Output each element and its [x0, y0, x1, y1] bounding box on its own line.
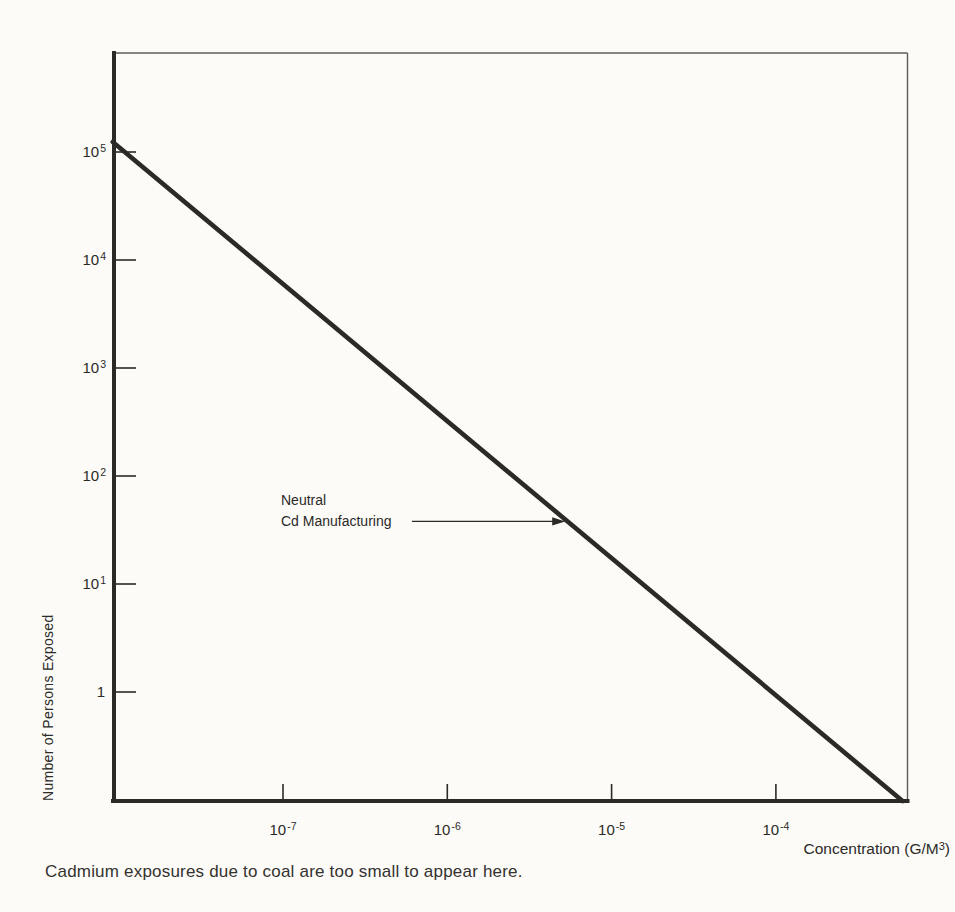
tick-base: 10: [82, 143, 99, 160]
y-tick-label: 1: [58, 680, 106, 700]
x-axis-title: Concentration (G/M3): [803, 840, 950, 858]
tick-exp: 5: [100, 142, 106, 154]
x-tick-label: 10-6: [415, 818, 479, 838]
chart-canvas: [0, 0, 955, 912]
y-tick-label: 105: [58, 140, 106, 160]
x-axis-title-suffix: ): [945, 840, 950, 857]
tick-exp: 1: [100, 574, 106, 586]
tick-base: 10: [82, 575, 99, 592]
tick-exp: -5: [616, 820, 625, 832]
tick-base: 10: [82, 251, 99, 268]
tick-base: 10: [82, 359, 99, 376]
x-tick-label: 10-5: [580, 818, 644, 838]
tick-base: 10: [82, 467, 99, 484]
tick-base: 1: [97, 683, 105, 700]
y-tick-label: 104: [58, 248, 106, 268]
tick-exp: 2: [100, 466, 106, 478]
y-tick-label: 103: [58, 356, 106, 376]
y-tick-label: 102: [58, 464, 106, 484]
tick-exp: 3: [100, 358, 106, 370]
tick-base: 10: [762, 821, 779, 838]
annotation-line-1: Neutral: [281, 490, 392, 511]
tick-exp: -7: [287, 820, 296, 832]
tick-exp: -6: [451, 820, 460, 832]
y-tick-label: 101: [58, 572, 106, 592]
cd-manufacturing-line: [113, 142, 903, 801]
tick-base: 10: [598, 821, 615, 838]
y-axis-tick-marks: [115, 152, 136, 692]
figure-caption: Cadmium exposures due to coal are too sm…: [45, 862, 523, 882]
x-axis-title-text: Concentration (G/M: [803, 840, 938, 857]
x-tick-label: 10-7: [251, 818, 315, 838]
tick-exp: -4: [780, 820, 789, 832]
x-axis-tick-marks: [283, 784, 776, 800]
scanned-chart-page: 105 104 103 102 101 1 10-7 10-6 10-5 10-…: [0, 0, 955, 912]
annotation-line-2: Cd Manufacturing: [281, 511, 392, 532]
tick-base: 10: [269, 821, 286, 838]
line-annotation: Neutral Cd Manufacturing: [281, 490, 392, 532]
x-tick-label: 10-4: [744, 818, 808, 838]
y-axis-title: Number of Persons Exposed: [40, 609, 58, 801]
tick-exp: 4: [100, 250, 106, 262]
tick-base: 10: [434, 821, 451, 838]
